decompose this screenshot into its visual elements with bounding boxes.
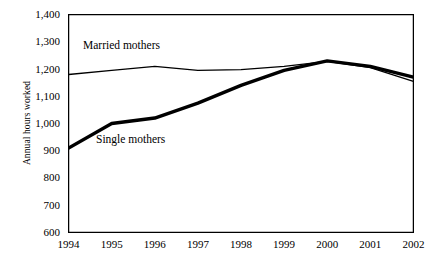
y-tick-label: 1,300 <box>16 36 60 47</box>
x-tick-label: 1994 <box>46 238 92 250</box>
chart-container: Annual hours worked 6007008009001,0001,1… <box>0 0 428 266</box>
x-tick-label: 1996 <box>132 238 178 250</box>
series-label-married-mothers: Married mothers <box>83 39 160 51</box>
y-tick-label: 1,100 <box>16 91 60 102</box>
y-tick-label: 900 <box>16 145 60 156</box>
y-tick-label: 700 <box>16 200 60 211</box>
x-tick-label: 2001 <box>347 238 393 250</box>
x-axis-tick-labels: 199419951996199719981999200020012002 <box>0 238 428 260</box>
y-tick-label: 1,000 <box>16 118 60 129</box>
x-tick-label: 2000 <box>304 238 350 250</box>
series-label-single-mothers: Single mothers <box>96 133 165 145</box>
x-tick-label: 1999 <box>261 238 307 250</box>
x-tick-label: 1995 <box>89 238 135 250</box>
x-tick-label: 1998 <box>218 238 264 250</box>
x-tick-label: 2002 <box>390 238 428 250</box>
y-axis-tick-labels: 6007008009001,0001,1001,2001,3001,400 <box>14 0 60 266</box>
y-tick-label: 800 <box>16 172 60 183</box>
y-tick-label: 1,400 <box>16 9 60 20</box>
y-tick-label: 1,200 <box>16 64 60 75</box>
x-tick-label: 1997 <box>175 238 221 250</box>
y-tick-label: 600 <box>16 227 60 238</box>
